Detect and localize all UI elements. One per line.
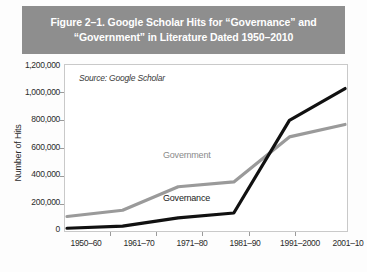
x-tick-mark (249, 232, 250, 236)
y-tick-label: 1,000,000 (25, 87, 60, 97)
y-tick-label: 200,000 (31, 197, 60, 207)
x-tick-mark (202, 232, 203, 236)
y-tick-label: 600,000 (31, 142, 60, 152)
line-government (67, 124, 345, 216)
x-tick-label: 1971–80 (177, 238, 208, 248)
figure-title-line-2: “Government” in Literature Dated 1950–20… (74, 31, 293, 43)
x-tick-label: 1950–60 (71, 238, 102, 248)
x-tick-mark (156, 232, 157, 236)
x-tick-label: 1961–70 (124, 238, 155, 248)
x-tick-mark (110, 232, 111, 236)
x-tick-label: 2001–10 (333, 238, 364, 248)
plot-frame: Source: Google Scholar Government Govern… (64, 64, 348, 232)
y-tick-label: 0 (56, 224, 60, 234)
y-axis-ticks: 1,200,000 1,000,000 800,000 600,000 400,… (0, 56, 60, 236)
figure-title-line-1: Figure 2–1. Google Scholar Hits for “Gov… (50, 16, 316, 28)
x-tick-label: 1991–2000 (280, 238, 320, 248)
line-governance (67, 89, 345, 229)
y-tick-label: 1,200,000 (25, 60, 60, 70)
figure-container: Figure 2–1. Google Scholar Hits for “Gov… (0, 0, 367, 272)
series-lines (65, 65, 347, 231)
figure-title: Figure 2–1. Google Scholar Hits for “Gov… (50, 15, 316, 45)
y-tick-label: 800,000 (31, 114, 60, 124)
chart-area: Number of Hits 1,200,000 1,000,000 800,0… (0, 56, 367, 272)
x-tick-label: 1981–90 (230, 238, 261, 248)
figure-title-bar: Figure 2–1. Google Scholar Hits for “Gov… (22, 6, 345, 54)
x-tick-mark (295, 232, 296, 236)
y-tick-label: 400,000 (31, 169, 60, 179)
